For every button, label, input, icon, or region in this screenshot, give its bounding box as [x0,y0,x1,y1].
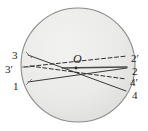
ray-chord-inner [62,67,127,68]
label-4: 4 [132,90,138,101]
center-point-marker [75,67,78,70]
label-4p: 4′ [130,77,138,88]
label-3p: 3′ [5,64,13,75]
figure-container: 33′12′24′4 O [0,0,148,131]
label-2p: 2′ [131,53,139,64]
label-1: 1 [13,81,19,92]
center-label-o: O [73,53,82,65]
label-3: 3 [12,50,18,61]
